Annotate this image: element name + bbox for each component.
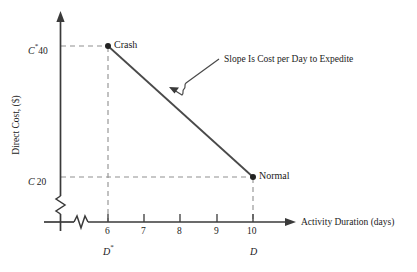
x-axis-title: Activity Duration (days)	[301, 217, 394, 227]
guide-lines	[61, 46, 253, 221]
x-axis	[44, 216, 296, 228]
x-tick-label-8: 8	[177, 226, 182, 236]
c-symbol: C	[28, 176, 35, 187]
x-tick-marks	[108, 214, 253, 222]
crash-point-label: Crash	[114, 39, 137, 50]
y-axis-arrowhead-icon	[56, 11, 64, 22]
slope-annotation-label: Slope Is Cost per Day to Expedite	[224, 54, 353, 64]
crash-point-marker	[105, 43, 111, 49]
x-tick-label-10: 10	[247, 226, 257, 236]
chart-canvas	[0, 0, 417, 272]
cost-slope-line	[108, 46, 253, 177]
annotation-leader-line	[169, 59, 219, 95]
x-axis-break-icon	[74, 216, 88, 228]
d-star-superscript: *	[110, 243, 114, 251]
annotation-leader-path	[174, 59, 219, 95]
y-tick-value-20: 20	[37, 177, 47, 187]
x-symbol-crash-duration: D*	[103, 241, 114, 259]
x-axis-arrowhead-icon	[285, 218, 296, 226]
c-star-symbol: C	[28, 45, 35, 56]
x-tick-label-7: 7	[141, 226, 146, 236]
y-axis-title: Direct Cost, ($)	[11, 70, 21, 180]
normal-point-marker	[250, 174, 256, 180]
x-tick-label-9: 9	[214, 226, 219, 236]
cost-duration-chart: Direct Cost, ($) C*40 C20 6 7 8 9 10 D* …	[0, 0, 417, 272]
y-axis-break-icon	[56, 196, 65, 214]
y-tick-value-40: 40	[38, 46, 48, 56]
y-tick-label-crash: C*40	[28, 40, 48, 58]
d-symbol: D	[250, 246, 257, 257]
x-tick-label-6: 6	[105, 226, 110, 236]
y-tick-label-normal: C20	[28, 171, 46, 189]
normal-point-label: Normal	[259, 170, 290, 181]
y-axis	[56, 11, 65, 231]
x-symbol-normal-duration: D	[250, 241, 257, 259]
